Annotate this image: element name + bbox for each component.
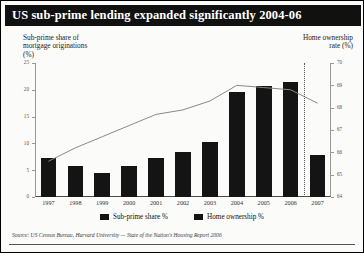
y-left-ticklabel-10: 10 [15, 141, 29, 146]
right-axis-caption-line-2: rate (%) [233, 42, 353, 50]
home-ownership-polyline [48, 85, 317, 161]
y-right-tick-65 [331, 175, 334, 176]
page-title: US sub-prime lending expanded significan… [5, 8, 302, 23]
y-right-ticklabel-64: 64 [337, 194, 351, 199]
forecast-divider [304, 63, 305, 197]
y-right-tick-69 [331, 85, 334, 86]
x-axis-label-2004: 2004 [223, 199, 250, 206]
y-right-tick-68 [331, 108, 334, 109]
plot-area: 0510152025 64656667686970 19971998199920… [35, 63, 331, 197]
chart-figure: US sub-prime lending expanded significan… [0, 0, 364, 253]
y-right-tick-64 [331, 197, 334, 198]
y-right-tick-66 [331, 152, 334, 153]
y-left-ticklabel-15: 15 [15, 114, 29, 119]
legend-item-homeownership: Home ownership % [194, 213, 264, 221]
y-left-ticklabel-5: 5 [15, 168, 29, 173]
legend-label-subprime: Sub-prime share % [113, 213, 168, 221]
legend-label-homeownership: Home ownership % [207, 213, 264, 221]
x-axis-label-1999: 1999 [89, 199, 116, 206]
legend-swatch-icon-subprime [100, 214, 109, 220]
title-bar: US sub-prime lending expanded significan… [5, 5, 361, 26]
x-axis-label-2001: 2001 [143, 199, 170, 206]
source-divider [9, 244, 355, 245]
y-right-ticklabel-65: 65 [337, 172, 351, 177]
legend-swatch-icon-homeownership [194, 214, 203, 220]
y-right-ticklabel-70: 70 [337, 60, 351, 65]
y-left-ticklabel-25: 25 [15, 60, 29, 65]
y-right-tick-70 [331, 63, 334, 64]
y-right-ticklabel-66: 66 [337, 150, 351, 155]
right-axis-caption: Home ownership rate (%) [233, 34, 353, 51]
x-axis-label-2005: 2005 [250, 199, 277, 206]
x-axis-label-2006: 2006 [277, 199, 304, 206]
legend-item-subprime: Sub-prime share % [100, 213, 168, 221]
x-axis-label-2003: 2003 [196, 199, 223, 206]
y-right-ticklabel-67: 67 [337, 127, 351, 132]
legend: Sub-prime share % Home ownership % [1, 213, 363, 221]
x-axis-label-1998: 1998 [62, 199, 89, 206]
y-left-ticklabel-20: 20 [15, 87, 29, 92]
home-ownership-line [35, 63, 331, 197]
y-left-tick-0 [32, 197, 35, 198]
y-right-ticklabel-69: 69 [337, 83, 351, 88]
x-axis-label-2002: 2002 [170, 199, 197, 206]
y-right-ticklabel-68: 68 [337, 105, 351, 110]
x-axis-label-2007: 2007 [304, 199, 331, 206]
y-left-ticklabel-0: 0 [15, 194, 29, 199]
y-right-tick-67 [331, 130, 334, 131]
left-axis-caption-line-3: (%) [23, 51, 173, 59]
left-axis-caption-line-2: mortgage originations [23, 42, 173, 50]
x-axis-label-1997: 1997 [35, 199, 62, 206]
source-note: Source: US Census Bureau, Harvard Univer… [12, 232, 352, 238]
x-axis-label-2000: 2000 [116, 199, 143, 206]
left-axis-caption: Sub-prime share of mortgage originations… [23, 34, 173, 59]
